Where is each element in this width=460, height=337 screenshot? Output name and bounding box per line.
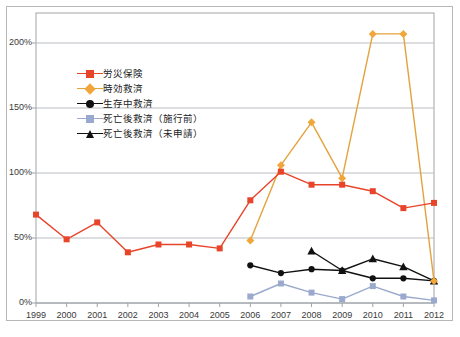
x-axis-label: 2004 xyxy=(172,310,206,320)
x-axis-label: 2001 xyxy=(80,310,114,320)
x-axis-label: 1999 xyxy=(19,310,53,320)
data-point-square xyxy=(155,242,161,248)
data-point-circle xyxy=(339,267,345,273)
data-point-square xyxy=(247,197,253,203)
data-point-square xyxy=(431,297,437,303)
data-point-square xyxy=(370,283,376,289)
data-point-square xyxy=(64,236,70,242)
legend-item-0[interactable]: 労災保険 xyxy=(77,66,227,81)
data-point-square xyxy=(370,188,376,194)
x-axis-label: 2005 xyxy=(203,310,237,320)
legend-item-2[interactable]: 生存中救済 xyxy=(77,96,227,111)
data-point-square xyxy=(339,182,345,188)
y-axis-label: 0% xyxy=(2,297,32,307)
legend-marker-diamond-icon xyxy=(77,82,103,96)
x-axis-label: 2011 xyxy=(386,310,420,320)
x-axis-label: 2003 xyxy=(141,310,175,320)
y-axis-label: 200% xyxy=(2,37,32,47)
data-point-circle xyxy=(370,275,376,281)
data-point-square xyxy=(33,212,39,218)
x-axis-ticks xyxy=(36,303,434,307)
chart-legend: 労災保険 時効救済 生存中救済 死亡後救済（施行前） xyxy=(77,66,227,141)
x-axis-label: 2009 xyxy=(325,310,359,320)
data-point-circle xyxy=(278,270,284,276)
data-point-square xyxy=(125,249,131,255)
legend-item-3[interactable]: 死亡後救済（施行前） xyxy=(77,111,227,126)
line-chart-plot xyxy=(0,0,460,337)
data-point-circle xyxy=(400,275,406,281)
x-axis-label: 2007 xyxy=(264,310,298,320)
legend-label-2: 生存中救済 xyxy=(103,97,153,110)
data-point-circle xyxy=(308,266,314,272)
data-point-square xyxy=(278,281,284,287)
x-axis-label: 2008 xyxy=(295,310,329,320)
y-axis-label: 100% xyxy=(2,167,32,177)
data-point-square xyxy=(400,294,406,300)
legend-marker-triangle-icon xyxy=(77,127,103,141)
x-axis-label: 2002 xyxy=(111,310,145,320)
legend-label-1: 時効救済 xyxy=(103,82,143,95)
data-point-circle xyxy=(247,262,253,268)
data-point-square xyxy=(217,245,223,251)
x-axis-label: 2012 xyxy=(417,310,451,320)
legend-marker-square-blue-icon xyxy=(77,112,103,126)
legend-label-0: 労災保険 xyxy=(103,67,143,80)
data-point-square xyxy=(431,200,437,206)
data-point-square xyxy=(339,296,345,302)
legend-item-1[interactable]: 時効救済 xyxy=(77,81,227,96)
y-axis-label: 150% xyxy=(2,102,32,112)
data-point-square xyxy=(400,205,406,211)
data-point-square xyxy=(186,242,192,248)
data-point-square xyxy=(278,169,284,175)
chart-screenshot: 0%50%100%150%200% 1999200020012002200320… xyxy=(0,0,460,337)
x-axis-label: 2006 xyxy=(233,310,267,320)
data-point-square xyxy=(247,294,253,300)
legend-marker-circle-icon xyxy=(77,97,103,111)
legend-item-4[interactable]: 死亡後救済（未申請） xyxy=(77,126,227,141)
x-axis-label: 2000 xyxy=(50,310,84,320)
legend-marker-square-icon xyxy=(77,67,103,81)
x-axis-label: 2010 xyxy=(356,310,390,320)
y-axis-label: 50% xyxy=(2,232,32,242)
legend-label-4: 死亡後救済（未申請） xyxy=(103,127,203,140)
data-point-square xyxy=(309,182,315,188)
data-point-square xyxy=(309,290,315,296)
data-point-square xyxy=(94,219,100,225)
legend-label-3: 死亡後救済（施行前） xyxy=(103,112,203,125)
